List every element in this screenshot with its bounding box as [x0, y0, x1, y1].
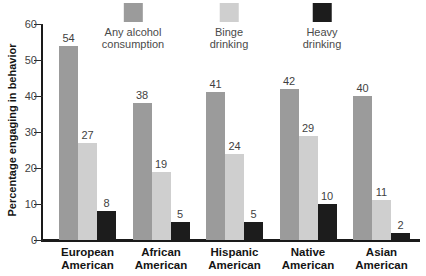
bar-value-label: 42: [274, 75, 304, 87]
plot-area: 010203040506054278EuropeanAmerican38195A…: [0, 0, 426, 276]
bar-binge-drinking: [78, 143, 97, 240]
y-tick-label: 20: [0, 162, 37, 174]
bar-any-alcohol-consumption: [353, 96, 372, 240]
y-tick-label: 10: [0, 198, 37, 210]
bar-value-label: 5: [239, 208, 269, 220]
y-tick-label: 60: [0, 18, 37, 30]
bar-heavy-drinking: [244, 222, 263, 240]
bar-value-label: 2: [386, 219, 416, 231]
category-label: AsianAmerican: [342, 246, 422, 272]
bar-value-label: 27: [73, 129, 103, 141]
bar-value-label: 8: [92, 197, 122, 209]
bar-heavy-drinking: [391, 233, 410, 240]
bar-binge-drinking: [152, 172, 171, 240]
y-axis-line: [41, 24, 43, 242]
category-label: HispanicAmerican: [195, 246, 275, 272]
bar-value-label: 41: [201, 78, 231, 90]
bar-heavy-drinking: [171, 222, 190, 240]
bar-value-label: 38: [127, 89, 157, 101]
bar-binge-drinking: [225, 154, 244, 240]
bar-value-label: 29: [293, 122, 323, 134]
category-label: EuropeanAmerican: [48, 246, 128, 272]
bar-any-alcohol-consumption: [206, 92, 225, 240]
bar-value-label: 10: [312, 190, 342, 202]
bar-value-label: 11: [367, 186, 397, 198]
bar-value-label: 5: [165, 208, 195, 220]
y-tick-label: 30: [0, 126, 37, 138]
bar-value-label: 40: [348, 82, 378, 94]
y-tick-label: 50: [0, 54, 37, 66]
bar-value-label: 24: [220, 140, 250, 152]
bar-heavy-drinking: [97, 211, 116, 240]
category-label: AfricanAmerican: [121, 246, 201, 272]
bar-chart-figure: Any alcohol consumption Binge drinking H…: [0, 0, 426, 276]
bar-any-alcohol-consumption: [133, 103, 152, 240]
y-tick-label: 40: [0, 90, 37, 102]
bar-value-label: 54: [54, 32, 84, 44]
bar-binge-drinking: [299, 136, 318, 240]
bar-value-label: 19: [146, 158, 176, 170]
y-tick-label: 0: [0, 234, 37, 246]
bar-any-alcohol-consumption: [280, 89, 299, 240]
bar-any-alcohol-consumption: [59, 46, 78, 240]
bar-heavy-drinking: [318, 204, 337, 240]
category-label: NativeAmerican: [268, 246, 348, 272]
